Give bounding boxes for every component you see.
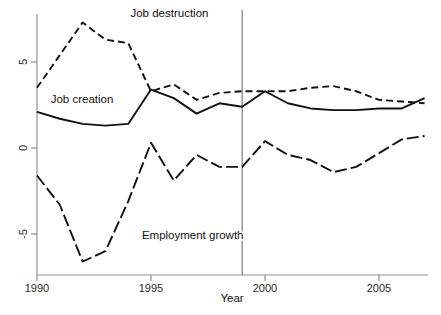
y-tick-label: 5 <box>17 59 29 65</box>
series-paths <box>37 22 425 261</box>
annotation-job-destruction: Job destruction <box>130 7 208 19</box>
series-annotations: Job destructionJob destructionJob creati… <box>51 7 244 241</box>
x-axis-ticks: 1990199520002005 <box>25 275 391 294</box>
x-axis-title: Year <box>220 292 243 304</box>
annotation-employment-growth: Employment growth <box>142 229 244 241</box>
series-line-employment-growth <box>37 136 425 262</box>
chart-container: 50-5 1990199520002005 Job destructionJob… <box>0 0 441 315</box>
annotation-job-creation: Job creation <box>51 93 114 105</box>
x-tick-label: 1990 <box>25 282 49 294</box>
x-tick-label: 2000 <box>253 282 277 294</box>
x-tick-label: 1995 <box>139 282 163 294</box>
y-tick-label: 0 <box>17 145 29 151</box>
y-tick-label: -5 <box>17 229 29 239</box>
x-tick-label: 2005 <box>367 282 391 294</box>
line-chart: 50-5 1990199520002005 Job destructionJob… <box>0 0 441 315</box>
y-axis-ticks: 50-5 <box>17 59 37 239</box>
series-line-job-destruction <box>37 22 425 103</box>
